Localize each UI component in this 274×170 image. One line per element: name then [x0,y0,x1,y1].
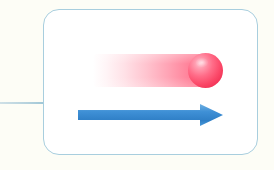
sphere-highlight-icon [196,58,208,67]
direction-arrow-icon [78,104,223,126]
figure-canvas [0,0,274,170]
connector-line [0,102,45,104]
